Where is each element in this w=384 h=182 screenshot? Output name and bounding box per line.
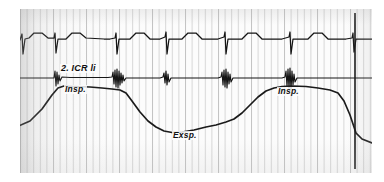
phonocardiogram-recording: 2. ICR li Insp. Exsp. Insp. (0, 0, 384, 182)
label-inspiration-second: Insp. (277, 87, 300, 96)
label-expiration: Exsp. (172, 131, 198, 140)
label-auscultation-site: 2. ICR li (60, 64, 97, 73)
label-inspiration-first: Insp. (64, 85, 87, 94)
